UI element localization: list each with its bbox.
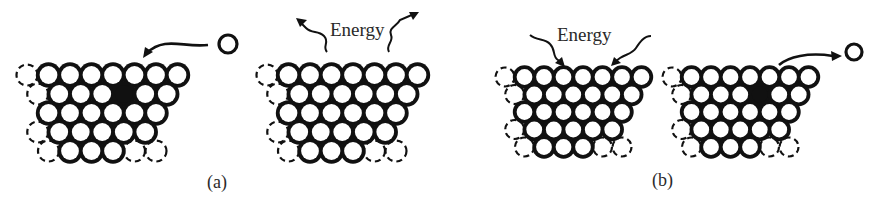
atom [536,139,552,155]
atom [575,139,591,155]
atom [376,123,394,141]
atom [312,123,330,141]
atom [565,87,581,103]
atom [158,85,176,103]
energy-wave-in-right [616,36,651,61]
atom [723,139,739,155]
atom [301,142,319,160]
lattice-a-left [17,62,191,163]
atom [781,69,797,85]
atom [526,87,542,103]
atom [556,139,572,155]
vacancy [752,87,768,103]
dashed-atom [386,141,407,162]
atom [684,69,700,85]
atom [61,66,79,84]
atom [290,123,308,141]
lattice-b-right [663,65,821,158]
atom [169,66,187,84]
atom [344,104,362,122]
atom [693,87,709,103]
atom [387,104,405,122]
free-atom-incoming [219,35,237,53]
atom [104,142,122,160]
atom [147,104,165,122]
atom [614,69,630,85]
atom [624,87,640,103]
energy-wave-out-left [300,22,327,52]
atom [50,85,68,103]
panel-label-a: (a) [207,172,227,193]
lattice-b-left [496,65,654,158]
atom [40,66,58,84]
atom [614,104,630,120]
lattice-a-right [257,62,431,163]
atom [147,66,165,84]
arrowhead-icon [296,18,307,27]
atom [595,104,611,120]
atom [312,85,330,103]
atom [126,104,144,122]
atom [323,142,341,160]
atom [136,123,154,141]
energy-label-absorbed: Energy [557,24,612,46]
atom [83,142,101,160]
atom [742,139,758,155]
dashed-atom [505,120,524,139]
atom [83,66,101,84]
free-atom-outgoing [846,44,862,60]
atom [684,104,700,120]
atom [344,66,362,84]
atom [771,87,787,103]
vacancy [115,85,133,103]
atom [355,123,373,141]
atom [398,85,416,103]
atom [323,104,341,122]
atom [280,66,298,84]
diagram-canvas [0,0,881,205]
atom [301,104,319,122]
atom [536,104,552,120]
atom [752,122,768,138]
atom [546,122,562,138]
atom [355,85,373,103]
atom [83,104,101,122]
atom [72,85,90,103]
atom [366,104,384,122]
atom [290,85,308,103]
atom [333,85,351,103]
atom [387,66,405,84]
panel-label-b: (b) [652,170,673,191]
atom [762,104,778,120]
atom [703,104,719,120]
dashed-atom [663,68,682,87]
arrowhead-icon [831,51,842,61]
atom [376,85,394,103]
atom [333,123,351,141]
atom [781,104,797,120]
atom [40,104,58,122]
dashed-atom [515,138,534,157]
atom [585,87,601,103]
atom [301,66,319,84]
atom [546,87,562,103]
energy-wave-out-right [388,14,414,52]
atom [517,69,533,85]
atom [526,122,542,138]
atom [126,66,144,84]
dashed-atom [17,65,38,86]
atom [791,87,807,103]
dashed-atom [496,68,515,87]
atom [136,85,154,103]
atom [575,104,591,120]
atom [732,87,748,103]
atom [104,66,122,84]
atom [723,104,739,120]
atom [713,87,729,103]
dashed-atom [146,141,167,162]
atom [115,123,133,141]
atom [61,104,79,122]
atom [280,104,298,122]
dashed-atom [682,138,701,157]
atom [366,66,384,84]
